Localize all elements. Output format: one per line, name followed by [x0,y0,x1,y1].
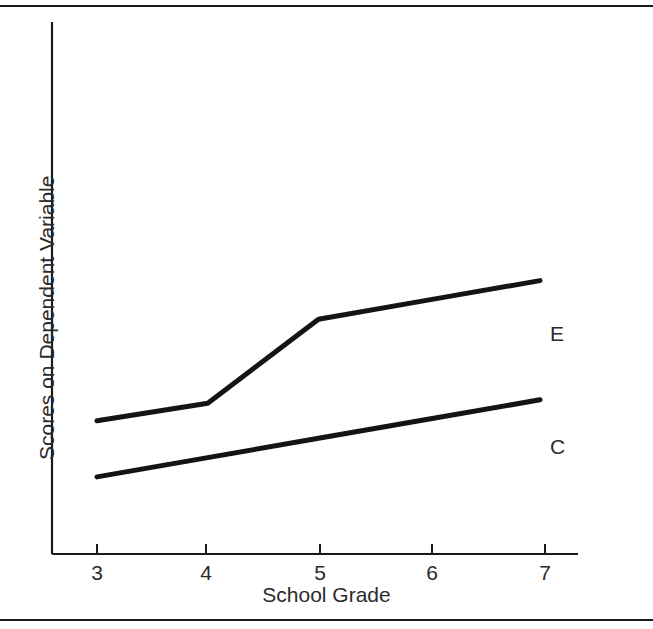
x-axis-title: School Grade [0,584,653,605]
x-tick-label-4: 4 [191,562,221,583]
x-tick-label-5: 5 [305,562,335,583]
x-tick-label-6: 6 [417,562,447,583]
y-axis-title: Scores on Dependent Variable [36,40,57,460]
line-chart-plot [0,0,653,629]
series-line-e [97,281,540,421]
x-tick-label-7: 7 [530,562,560,583]
series-label-e: E [550,323,564,344]
figure-container: 3 4 5 6 7 E C School Grade Scores on Dep… [0,0,653,629]
series-label-c: C [550,436,565,457]
x-tick-label-3: 3 [82,562,112,583]
